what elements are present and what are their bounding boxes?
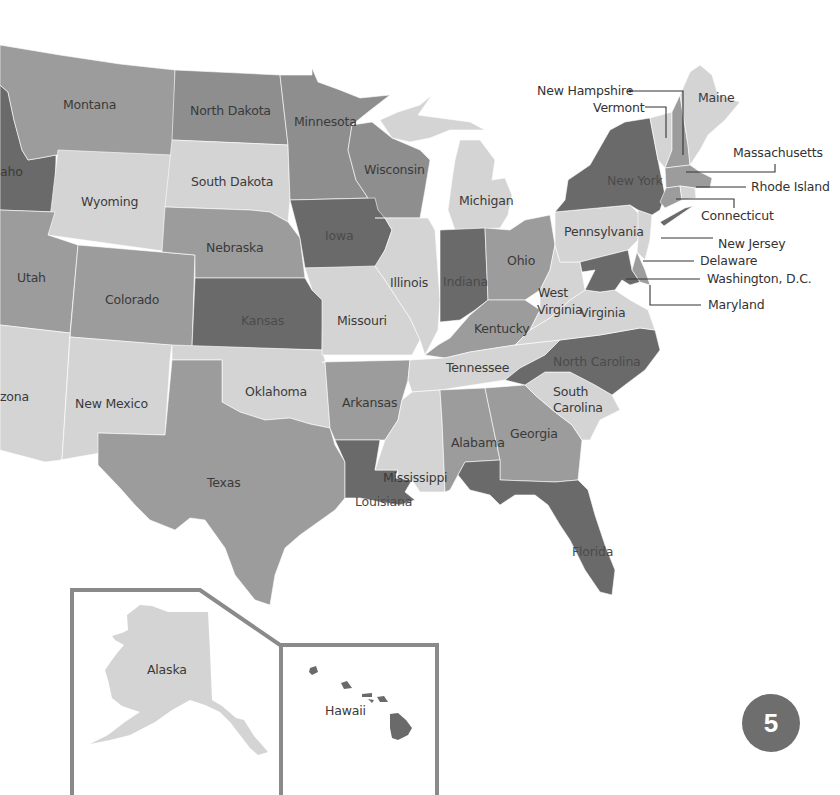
state-maine[interactable] xyxy=(680,65,740,165)
label-idaho: aho xyxy=(0,164,23,179)
label-texas: Texas xyxy=(206,475,241,490)
label-west-virginia-2: Virginia xyxy=(537,302,583,317)
label-new-mexico: New Mexico xyxy=(75,396,148,411)
callout-new-jersey: New Jersey xyxy=(718,236,786,251)
label-new-york: New York xyxy=(607,173,664,188)
callout-connecticut: Connecticut xyxy=(701,208,774,223)
label-north-carolina: North Carolina xyxy=(553,354,641,369)
page-number-badge: 5 xyxy=(742,694,800,752)
label-illinois: Illinois xyxy=(390,275,428,290)
label-arkansas: Arkansas xyxy=(342,395,397,410)
callout-washington-dc: Washington, D.C. xyxy=(707,271,812,286)
dot-icon xyxy=(628,89,631,92)
label-indiana: Indiana xyxy=(443,274,488,289)
state-rhode-island[interactable] xyxy=(680,186,696,200)
label-michigan: Michigan xyxy=(459,193,513,208)
label-south-dakota: South Dakota xyxy=(191,174,273,189)
label-wisconsin: Wisconsin xyxy=(364,162,425,177)
leader-connecticut xyxy=(676,199,734,208)
label-pennsylvania: Pennsylvania xyxy=(564,224,644,239)
callout-rhode-island: Rhode Island xyxy=(751,179,830,194)
label-arizona: zona xyxy=(0,389,29,404)
state-hawaii-maui-group[interactable] xyxy=(362,693,388,703)
label-alaska: Alaska xyxy=(147,662,187,677)
state-hawaii-big-island[interactable] xyxy=(390,713,412,740)
callout-vermont: Vermont xyxy=(593,100,645,115)
callout-delaware: Delaware xyxy=(700,253,758,268)
label-mississippi: Mississippi xyxy=(383,470,447,485)
us-map: Montana North Dakota Minnesota aho Wyomi… xyxy=(0,0,840,795)
label-utah: Utah xyxy=(17,270,46,285)
label-virginia: Virginia xyxy=(580,305,626,320)
label-minnesota: Minnesota xyxy=(294,114,357,129)
callout-new-hampshire: New Hampshire xyxy=(537,83,634,98)
label-missouri: Missouri xyxy=(337,313,387,328)
state-michigan-upper[interactable] xyxy=(380,95,485,142)
label-wyoming: Wyoming xyxy=(81,194,138,209)
label-west-virginia-1: West xyxy=(538,285,568,300)
page-number: 5 xyxy=(764,708,778,739)
label-hawaii: Hawaii xyxy=(325,703,366,718)
label-alabama: Alabama xyxy=(451,435,505,450)
label-north-dakota: North Dakota xyxy=(190,103,271,118)
state-long-island[interactable] xyxy=(660,206,693,226)
state-hawaii-kauai[interactable] xyxy=(309,666,318,675)
label-iowa: Iowa xyxy=(325,228,353,243)
callout-maryland: Maryland xyxy=(708,297,764,312)
label-montana: Montana xyxy=(63,97,116,112)
label-georgia: Georgia xyxy=(510,426,558,441)
state-new-york[interactable] xyxy=(555,118,665,215)
label-ohio: Ohio xyxy=(507,253,535,268)
leader-maryland xyxy=(650,285,701,305)
label-maine: Maine xyxy=(698,90,735,105)
label-colorado: Colorado xyxy=(105,292,159,307)
label-tennessee: Tennessee xyxy=(445,360,510,375)
label-south-carolina-1: South xyxy=(553,384,588,399)
label-nebraska: Nebraska xyxy=(206,240,263,255)
label-oklahoma: Oklahoma xyxy=(245,384,307,399)
state-michigan[interactable] xyxy=(448,140,512,230)
callout-massachusetts: Massachusetts xyxy=(733,145,823,160)
label-kentucky: Kentucky xyxy=(474,321,530,336)
label-kansas: Kansas xyxy=(241,313,284,328)
state-hawaii-oahu[interactable] xyxy=(341,681,352,689)
leader-massachusetts xyxy=(686,164,775,172)
state-alaska[interactable] xyxy=(90,605,268,755)
label-louisiana: Louisiana xyxy=(355,494,412,509)
label-florida: Florida xyxy=(572,544,613,559)
state-massachusetts[interactable] xyxy=(665,165,712,188)
label-south-carolina-2: Carolina xyxy=(553,400,603,415)
